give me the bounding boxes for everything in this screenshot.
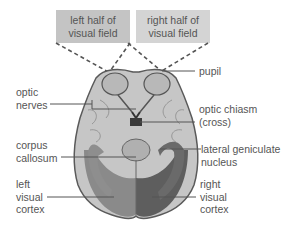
sight-lines xyxy=(56,43,208,75)
label-left-visual-cortex: left visual cortex xyxy=(16,178,45,216)
label-corpus-callosum: corpus callosum xyxy=(16,139,57,164)
label-right-visual-cortex: right visual cortex xyxy=(200,178,229,216)
label-lateral-geniculate-nucleus: lateral geniculate nucleus xyxy=(201,143,280,168)
label-pupil: pupil xyxy=(199,65,221,78)
brain-shape xyxy=(74,70,197,219)
label-optic-chiasm: optic chiasm (cross) xyxy=(199,103,257,128)
label-optic-nerves: optic nerves xyxy=(16,86,48,111)
